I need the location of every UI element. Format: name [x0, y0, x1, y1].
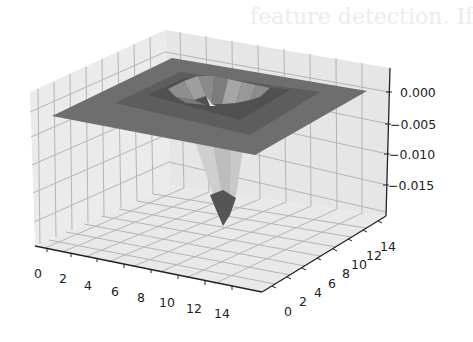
- x-tick-4: 4: [84, 278, 92, 293]
- y-tick-6: 6: [328, 276, 336, 291]
- y-tick-4: 4: [314, 285, 322, 300]
- y-tick-10: 10: [351, 257, 367, 272]
- y-tick-2: 2: [299, 294, 307, 309]
- y-tick-8: 8: [342, 266, 350, 281]
- x-tick-0: 0: [34, 266, 42, 281]
- z-tick-0: 0.000: [400, 85, 436, 100]
- z-tick-m0015: −0.015: [388, 178, 434, 193]
- x-tick-8: 8: [137, 290, 145, 305]
- z-tick-m0010: −0.010: [389, 147, 435, 162]
- x-tick-2: 2: [59, 271, 67, 286]
- y-tick-0: 0: [284, 304, 292, 319]
- z-tick-m0005: −0.005: [390, 117, 436, 132]
- x-tick-14: 14: [214, 306, 230, 321]
- x-tick-10: 10: [159, 295, 175, 310]
- z-tick-labels: 0.000 −0.005 −0.010 −0.015: [388, 85, 436, 193]
- x-tick-12: 12: [186, 301, 202, 316]
- y-tick-14: 14: [380, 239, 396, 254]
- x-tick-6: 6: [111, 284, 119, 299]
